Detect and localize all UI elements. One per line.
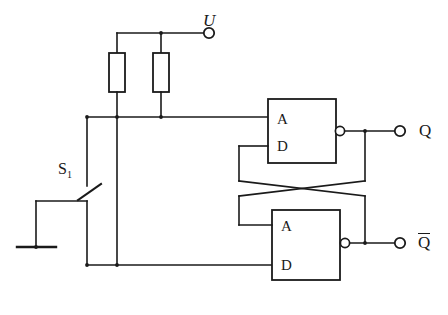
switch-s1-subscript: 1 — [67, 169, 72, 180]
switch-s1-label: S1 — [58, 161, 72, 180]
gate-top-pin-a-label: A — [277, 112, 288, 127]
circuit-figure: U S1 A D A D Q Q — [0, 0, 448, 315]
output-terminal-q-label: Q — [419, 122, 431, 139]
resistor-r1 — [109, 53, 125, 92]
output-terminal-qbar-circle — [395, 238, 405, 248]
circuit-schematic — [0, 0, 448, 315]
gate-top-pin-d-label: D — [277, 139, 288, 154]
gate-bottom-pin-a-label: A — [281, 219, 292, 234]
gate-top-output-bubble — [335, 126, 344, 135]
gate-bottom-output-bubble — [340, 238, 349, 247]
switch-s1-letter: S — [58, 160, 67, 177]
supply-terminal-u-label: U — [203, 12, 215, 29]
supply-rail — [117, 33, 203, 53]
output-terminal-q-circle — [395, 126, 405, 136]
gate-bottom-pin-d-label: D — [281, 258, 292, 273]
output-terminal-qbar-text: Q — [418, 233, 430, 251]
wire-top-a-input — [87, 92, 268, 117]
output-terminal-qbar-label: Q — [418, 233, 430, 251]
resistor-r2 — [153, 53, 169, 92]
switch-s1[interactable] — [36, 184, 101, 247]
